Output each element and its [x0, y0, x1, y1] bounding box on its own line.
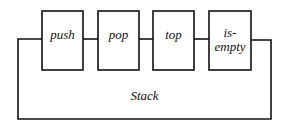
container-label: Stack [18, 89, 271, 103]
op-label-top: top [153, 28, 194, 42]
op-label-push: push [42, 28, 83, 42]
stack-diagram [0, 0, 282, 125]
op-label-pop: pop [98, 28, 139, 42]
op-label-is-empty: is- empty [209, 26, 251, 54]
op-label-is-empty-line1: is- [209, 26, 251, 40]
op-label-is-empty-line2: empty [209, 40, 251, 54]
